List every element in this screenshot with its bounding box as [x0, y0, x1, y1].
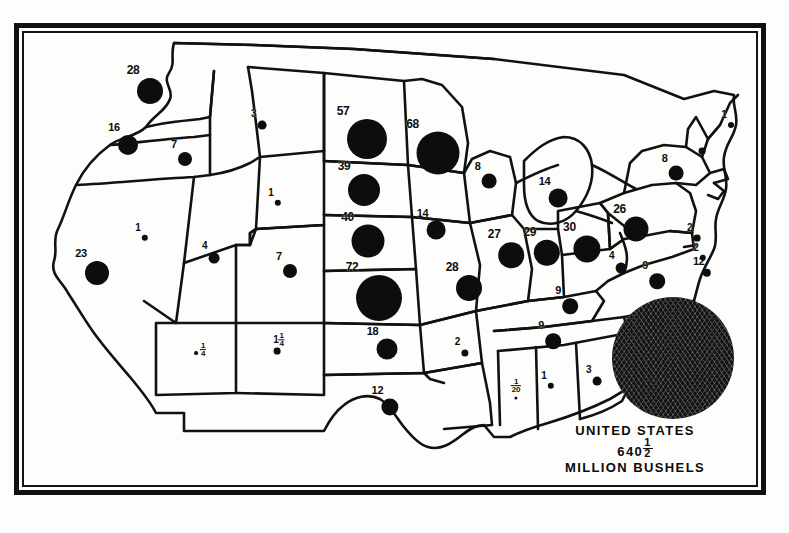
value-label-montana: 3 [251, 107, 256, 118]
value-label-north-dakota: 57 [337, 104, 350, 118]
symbol-circle-idaho [178, 152, 192, 166]
symbol-circle-new-jersey [694, 235, 701, 242]
symbol-circle-oklahoma [377, 339, 398, 360]
value-label-ohio: 30 [563, 220, 576, 234]
value-label-nevada: 1 [135, 221, 140, 232]
legend-total-whole: 640 [617, 444, 643, 459]
value-label-new-jersey: 2 [687, 221, 692, 232]
value-label-oklahoma: 18 [367, 325, 379, 337]
symbol-circle-oregon [118, 135, 138, 155]
value-label-new-york: 8 [662, 152, 668, 164]
symbol-circle-new-york [669, 166, 684, 181]
symbol-circle-wisconsin [482, 174, 497, 189]
value-label-iowa: 14 [417, 207, 429, 219]
value-label-maine: 1 [721, 109, 726, 120]
symbol-circle-montana [258, 121, 267, 130]
value-label-illinois: 27 [488, 227, 501, 241]
value-label-oregon: 16 [108, 121, 120, 133]
value-label-minnesota: 68 [406, 117, 419, 131]
symbol-circle-minnesota [417, 132, 460, 175]
symbol-circle-tennessee [545, 333, 561, 349]
value-label-new-mexico: 114 [273, 332, 284, 347]
value-label-colorado: 7 [276, 250, 282, 262]
symbol-circle-michigan [549, 189, 568, 208]
value-label-utah: 4 [202, 239, 207, 250]
symbol-circle-north-dakota [347, 119, 387, 159]
value-label-michigan: 14 [539, 175, 551, 187]
value-label-delaware: 2 [693, 241, 698, 252]
map-legend: UNITED STATES 64012 MILLION BUSHELS [530, 423, 740, 475]
value-label-idaho: 7 [171, 138, 177, 150]
value-label-kansas: 72 [346, 260, 359, 274]
map-plot-area: 2816723141431711457394072181268142828142… [24, 33, 756, 485]
symbol-circle-arizona [194, 351, 198, 355]
value-label-missouri: 28 [446, 260, 459, 274]
value-label-south-dakota: 39 [338, 159, 351, 173]
legend-total-circle [612, 297, 734, 419]
symbol-circle-missouri [456, 275, 482, 301]
symbol-circle-nebraska [352, 225, 385, 258]
value-label-washington: 28 [127, 63, 140, 77]
legend-fraction-denominator: 2 [643, 449, 653, 459]
legend-country-label: UNITED STATES [530, 423, 740, 438]
symbol-circle-pennsylvania [624, 217, 649, 242]
value-label-texas: 12 [372, 384, 384, 396]
symbol-circle-colorado [283, 264, 297, 278]
symbol-circle-vermont [699, 148, 706, 155]
legend-total-fraction: 12 [643, 438, 653, 459]
symbol-circle-california [85, 261, 109, 285]
value-label-alabama: 1 [541, 369, 546, 380]
symbol-circle-washington [137, 78, 163, 104]
legend-units-label: MILLION BUSHELS [530, 460, 740, 475]
symbol-circle-maine [728, 122, 734, 128]
value-label-pennsylvania: 26 [613, 202, 626, 216]
symbol-circle-south-dakota [348, 174, 380, 206]
value-label-arkansas: 2 [455, 336, 460, 347]
value-label-tennessee: 9 [538, 319, 544, 331]
value-label-indiana: 29 [523, 225, 536, 239]
value-label-west-virginia: 4 [609, 249, 614, 260]
symbol-circle-georgia [593, 377, 602, 386]
value-label-wisconsin: 8 [475, 160, 481, 172]
symbol-circle-utah [209, 253, 220, 264]
symbol-circle-illinois [498, 242, 524, 268]
symbol-circle-new-mexico [274, 348, 281, 355]
value-label-nebraska: 40 [341, 210, 354, 224]
legend-total-value: 64012 [530, 438, 740, 460]
value-label-mississippi: 120 [511, 378, 521, 394]
wheat-production-map-figure: 2816723141431711457394072181268142828142… [0, 0, 789, 533]
value-label-wyoming: 1 [268, 186, 273, 197]
symbol-circle-kansas [356, 275, 402, 321]
value-label-arizona: 14 [200, 342, 206, 358]
value-label-georgia: 3 [586, 363, 591, 374]
value-label-kentucky: 9 [555, 284, 561, 296]
symbol-circle-kentucky [562, 298, 578, 314]
value-label-california: 23 [75, 247, 87, 259]
symbol-circle-west-virginia [616, 263, 627, 274]
value-label-virginia: 9 [642, 259, 648, 271]
symbol-circle-virginia [649, 273, 665, 289]
symbol-circle-iowa [427, 221, 446, 240]
